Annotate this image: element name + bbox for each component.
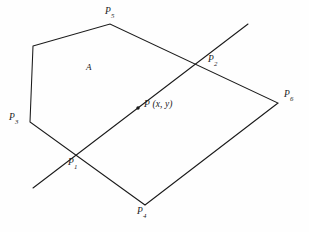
transversal-group (33, 24, 248, 188)
diagram-canvas: A P5 P2 P6 P3 P1 P4 P (x, y) (0, 0, 309, 232)
intersection-label-p1: P1 (68, 158, 77, 170)
region-label-a: A (86, 63, 92, 72)
intersection-label-p2-sub: 2 (214, 60, 218, 67)
vertex-label-p5: P5 (105, 7, 114, 19)
vertex-label-p6-sub: 6 (290, 95, 294, 102)
intersection-label-p2: P2 (208, 55, 217, 67)
point-p-label: P (x, y) (144, 100, 173, 110)
marked-point-group (136, 106, 139, 109)
vertex-label-p3-sub: 3 (15, 118, 19, 125)
vertex-label-p6: P6 (284, 90, 293, 102)
point-p-dot (136, 106, 139, 109)
diagram-vector-layer (0, 0, 309, 232)
point-p-label-base: P (144, 99, 150, 109)
transversal-line (33, 24, 248, 188)
vertex-label-p5-sub: 5 (111, 12, 115, 19)
point-p-label-coords: (x, y) (152, 99, 172, 109)
intersection-label-p1-sub: 1 (74, 163, 78, 170)
polygon-group (30, 24, 278, 205)
vertex-label-p4-sub: 4 (143, 212, 147, 219)
vertex-label-p3: P3 (9, 113, 18, 125)
vertex-label-p4: P4 (137, 207, 146, 219)
polygon-outline (30, 24, 278, 205)
